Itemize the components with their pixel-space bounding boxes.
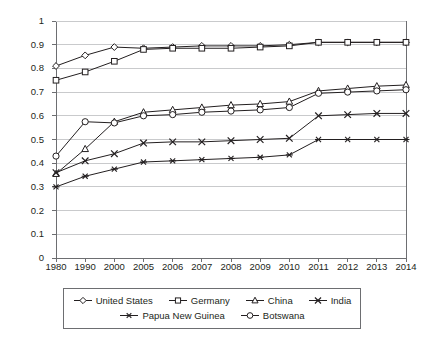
data-point-square	[199, 45, 205, 51]
legend-marker-cross	[308, 295, 328, 306]
data-point-circle	[111, 120, 117, 126]
legend-marker-asterisk	[119, 310, 139, 321]
y-tick-label: 0	[39, 253, 44, 263]
y-axis-labels: 00.10.20.30.40.50.60.70.80.91	[0, 21, 50, 258]
x-tick-label: 2009	[250, 262, 271, 272]
data-point-asterisk	[315, 137, 322, 142]
y-tick-label: 0.1	[31, 230, 44, 240]
data-point-circle	[374, 88, 380, 94]
legend-entry-china[interactable]: China	[245, 295, 293, 306]
line-chart: 00.10.20.30.40.50.60.70.80.91 1980199020…	[0, 0, 424, 342]
data-point-asterisk	[82, 174, 89, 179]
data-point-square	[175, 298, 180, 303]
legend-label: Germany	[191, 296, 230, 306]
legend-label: United States	[96, 296, 153, 306]
series-layer	[56, 21, 406, 258]
y-tick-label: 0.5	[31, 135, 44, 145]
data-point-square	[82, 69, 88, 75]
legend-label: Papua New Guinea	[142, 311, 224, 321]
chart-legend: United StatesGermanyChinaIndia Papua New…	[63, 288, 361, 329]
data-point-asterisk	[169, 158, 176, 163]
data-point-circle	[345, 89, 351, 95]
x-tick-label: 2007	[191, 262, 212, 272]
x-tick-label: 1980	[45, 262, 66, 272]
data-point-diamond	[80, 297, 86, 303]
series-papua-new-guinea	[53, 137, 410, 189]
data-point-square	[374, 40, 380, 46]
legend-marker-diamond	[73, 295, 93, 306]
data-point-cross	[82, 158, 89, 165]
legend-label: India	[331, 296, 352, 306]
data-point-circle	[140, 113, 146, 119]
data-point-square	[112, 58, 118, 64]
data-point-asterisk	[286, 152, 293, 157]
data-point-square	[141, 47, 147, 53]
data-point-diamond	[111, 44, 118, 51]
data-point-asterisk	[140, 159, 147, 164]
data-point-square	[287, 43, 293, 49]
data-point-square	[228, 45, 234, 51]
data-point-asterisk	[111, 167, 118, 172]
data-point-square	[316, 40, 322, 46]
y-tick-label: 0.2	[31, 206, 44, 216]
legend-row-2: Papua New GuineaBotswana	[64, 308, 360, 323]
data-point-circle	[170, 112, 176, 118]
series-china	[53, 81, 410, 176]
y-tick-label: 0.4	[31, 158, 44, 168]
x-tick-label: 2010	[279, 262, 300, 272]
data-point-asterisk	[53, 184, 60, 189]
data-point-square	[257, 44, 263, 50]
legend-entry-india[interactable]: India	[308, 295, 352, 306]
x-axis-labels: 1980199020002005200620072008200920102011…	[56, 262, 406, 278]
x-tick-label: 2006	[162, 262, 183, 272]
legend-entry-papua-new-guinea[interactable]: Papua New Guinea	[119, 310, 224, 321]
series-line	[56, 140, 406, 187]
data-point-asterisk	[198, 157, 205, 162]
legend-label: China	[268, 296, 293, 306]
y-tick-label: 0.9	[31, 40, 44, 50]
data-point-asterisk	[228, 156, 235, 161]
x-tick-label: 2013	[366, 262, 387, 272]
series-line	[56, 85, 406, 174]
plot-area	[56, 21, 406, 258]
x-tick-label: 2000	[104, 262, 125, 272]
series-india	[53, 110, 410, 176]
y-tick-label: 0.3	[31, 182, 44, 192]
x-tick-label: 2008	[220, 262, 241, 272]
data-point-circle	[257, 107, 263, 113]
data-point-asterisk	[126, 313, 132, 318]
data-point-square	[345, 40, 351, 46]
data-point-circle	[286, 104, 292, 110]
x-tick-label: 2014	[395, 262, 416, 272]
legend-marker-square	[168, 295, 188, 306]
legend-entry-united-states[interactable]: United States	[73, 295, 153, 306]
y-tick-label: 0.8	[31, 64, 44, 74]
data-point-circle	[228, 108, 234, 114]
series-united-states	[53, 39, 410, 70]
data-point-asterisk	[257, 155, 264, 160]
data-point-square	[170, 45, 176, 51]
data-point-circle	[403, 87, 409, 93]
data-point-asterisk	[373, 137, 380, 142]
data-point-circle	[315, 90, 321, 96]
data-point-square	[53, 77, 59, 83]
y-tick-label: 0.6	[31, 111, 44, 121]
legend-entry-botswana[interactable]: Botswana	[240, 310, 305, 321]
y-tick-label: 0.7	[31, 87, 44, 97]
x-tick-label: 2005	[133, 262, 154, 272]
data-point-square	[403, 40, 409, 46]
x-tick-label: 1990	[75, 262, 96, 272]
series-germany	[53, 40, 409, 84]
data-point-asterisk	[344, 137, 351, 142]
x-tick-label: 2012	[337, 262, 358, 272]
data-point-circle	[199, 109, 205, 115]
data-point-circle	[82, 119, 88, 125]
legend-entry-germany[interactable]: Germany	[168, 295, 230, 306]
data-point-circle	[247, 313, 253, 319]
y-tick-label: 1	[39, 16, 44, 26]
data-point-circle	[53, 153, 59, 159]
legend-marker-triangle	[245, 295, 265, 306]
legend-label: Botswana	[263, 311, 305, 321]
series-line	[56, 90, 406, 156]
legend-marker-circle	[240, 310, 260, 321]
